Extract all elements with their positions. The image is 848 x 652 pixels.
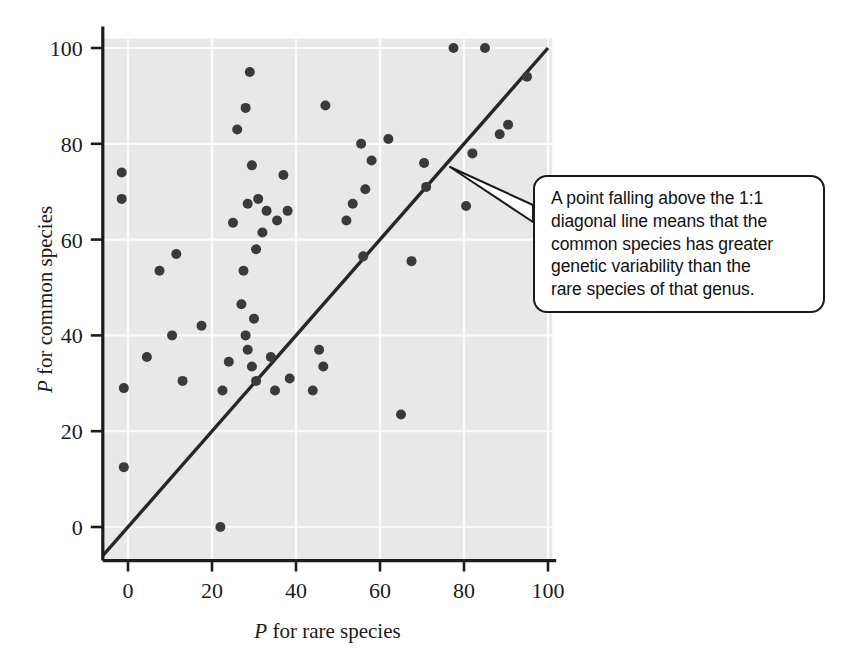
data-point <box>247 362 257 372</box>
data-point <box>236 299 246 309</box>
data-point <box>241 330 251 340</box>
x-tick-label: 100 <box>532 578 565 603</box>
y-tick-label: 20 <box>61 419 83 444</box>
data-point <box>243 345 253 355</box>
y-axis-title: P for common species <box>33 206 57 394</box>
data-point <box>308 385 318 395</box>
data-point <box>360 184 370 194</box>
data-point <box>142 352 152 362</box>
y-tick-label: 0 <box>72 515 83 540</box>
callout-line-1: A point falling above the 1:1 <box>551 187 809 210</box>
data-point <box>241 103 251 113</box>
data-point <box>266 352 276 362</box>
data-point <box>119 462 129 472</box>
y-tick-label: 80 <box>61 132 83 157</box>
data-point <box>253 194 263 204</box>
callout-line-2: diagonal line means that the <box>551 210 809 233</box>
y-tick-label: 40 <box>61 323 83 348</box>
data-point <box>283 206 293 216</box>
data-point <box>356 139 366 149</box>
callout-line-5: rare species of that genus. <box>551 278 809 301</box>
y-tick-label: 60 <box>61 228 83 253</box>
data-point <box>503 120 513 130</box>
data-point <box>367 156 377 166</box>
data-point <box>178 376 188 386</box>
data-point <box>272 215 282 225</box>
x-tick-label: 60 <box>369 578 391 603</box>
data-point <box>285 374 295 384</box>
data-point <box>320 100 330 110</box>
data-point <box>495 129 505 139</box>
x-tick-label: 20 <box>201 578 223 603</box>
data-point <box>396 409 406 419</box>
data-point <box>171 249 181 259</box>
data-point <box>239 266 249 276</box>
data-point <box>197 321 207 331</box>
data-point <box>341 215 351 225</box>
x-tick-label: 0 <box>123 578 134 603</box>
callout-annotation: A point falling above the 1:1 diagonal l… <box>533 175 825 313</box>
data-point <box>314 345 324 355</box>
data-point <box>232 124 242 134</box>
figure-container: 020406080100020406080100P for rare speci… <box>0 0 848 652</box>
y-tick-label: 100 <box>50 36 83 61</box>
data-point <box>251 376 261 386</box>
data-point <box>461 201 471 211</box>
data-point <box>318 362 328 372</box>
data-point <box>270 385 280 395</box>
data-point <box>249 314 259 324</box>
x-axis-title: P for rare species <box>253 619 400 643</box>
data-point <box>215 522 225 532</box>
x-tick-label: 40 <box>285 578 307 603</box>
data-point <box>167 330 177 340</box>
data-point <box>419 158 429 168</box>
callout-line-3: common species has greater <box>551 233 809 256</box>
data-point <box>421 182 431 192</box>
data-point <box>224 357 234 367</box>
data-point <box>522 72 532 82</box>
data-point <box>467 148 477 158</box>
data-point <box>218 385 228 395</box>
data-point <box>407 256 417 266</box>
data-point <box>117 194 127 204</box>
data-point <box>262 206 272 216</box>
data-point <box>228 218 238 228</box>
data-point <box>243 199 253 209</box>
data-point <box>449 43 459 53</box>
data-point <box>117 168 127 178</box>
data-point <box>119 383 129 393</box>
data-point <box>257 227 267 237</box>
data-point <box>348 199 358 209</box>
data-point <box>155 266 165 276</box>
data-point <box>245 67 255 77</box>
callout-line-4: genetic variability than the <box>551 255 809 278</box>
x-tick-label: 80 <box>453 578 475 603</box>
scatter-plot: 020406080100020406080100P for rare speci… <box>0 0 848 652</box>
data-point <box>480 43 490 53</box>
data-point <box>247 160 257 170</box>
data-point <box>358 251 368 261</box>
data-point <box>383 134 393 144</box>
data-point <box>251 244 261 254</box>
data-point <box>278 170 288 180</box>
